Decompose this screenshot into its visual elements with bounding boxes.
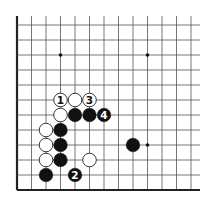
white-stone-icon — [39, 153, 53, 167]
move-number-label: 1 — [57, 94, 64, 106]
black-stone-icon — [54, 138, 68, 152]
white-stone — [54, 108, 68, 122]
white-stone-icon — [54, 108, 68, 122]
move-number-label: 4 — [100, 109, 107, 121]
black-stone — [126, 138, 140, 152]
black-stone-icon — [83, 108, 97, 122]
black-stone-2: 2 — [68, 168, 82, 182]
black-stone-icon — [126, 138, 140, 152]
white-stone — [68, 93, 82, 107]
black-stone — [68, 108, 82, 122]
white-stone-icon — [39, 138, 53, 152]
black-stone — [54, 153, 68, 167]
black-stone-icon — [54, 153, 68, 167]
star-point — [146, 53, 150, 57]
black-stone-icon — [39, 168, 53, 182]
white-stone — [39, 153, 53, 167]
move-number-label: 2 — [71, 169, 78, 181]
white-stone — [83, 153, 97, 167]
black-stone-icon — [54, 123, 68, 137]
white-stone — [39, 123, 53, 137]
go-board: 1342 — [0, 0, 209, 203]
black-stone — [39, 168, 53, 182]
white-stone-icon — [39, 123, 53, 137]
move-number-label: 3 — [86, 94, 93, 106]
black-stone — [54, 138, 68, 152]
white-stone — [39, 138, 53, 152]
black-stone — [54, 123, 68, 137]
black-stone-icon — [68, 108, 82, 122]
star-point — [146, 143, 150, 147]
black-stone-4: 4 — [97, 108, 111, 122]
white-stone-icon — [68, 93, 82, 107]
star-point — [59, 53, 63, 57]
white-stone-icon — [83, 153, 97, 167]
white-stone-3: 3 — [83, 93, 97, 107]
white-stone-1: 1 — [54, 93, 68, 107]
black-stone — [83, 108, 97, 122]
